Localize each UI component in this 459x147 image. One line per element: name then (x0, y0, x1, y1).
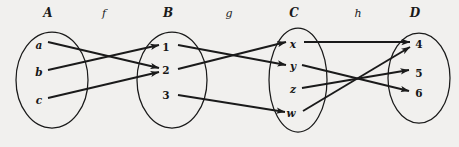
set-label-c: C (289, 6, 299, 20)
element-c-y: y (289, 60, 297, 72)
element-b-2: 2 (162, 64, 169, 76)
map-labels-group: fgh (101, 7, 362, 20)
arrow-h-y-to-6 (302, 65, 409, 91)
set-label-b: B (162, 6, 173, 20)
arrow-f-c-to-2 (48, 72, 159, 98)
map-label-f: f (101, 7, 108, 20)
set-label-d: D (409, 6, 421, 20)
diagram-canvas: ABCD fgh abc123xyzw456 (0, 0, 459, 147)
set-oval-a (16, 32, 88, 128)
arrow-f-b-to-1 (48, 45, 159, 70)
arrows-group (48, 42, 410, 112)
arrow-g-3-to-w (178, 95, 285, 112)
element-c-z: z (289, 83, 297, 95)
set-oval-b (137, 32, 207, 128)
element-d-6: 6 (415, 87, 422, 99)
element-c-x: x (289, 38, 297, 50)
set-label-a: A (42, 6, 52, 20)
element-b-1: 1 (162, 41, 169, 53)
element-a-b: b (35, 66, 42, 78)
set-ovals-group (16, 28, 450, 132)
element-b-3: 3 (162, 89, 169, 101)
element-d-4: 4 (415, 38, 422, 50)
function-composition-diagram: ABCD fgh abc123xyzw456 (0, 0, 459, 147)
arrow-h-w-to-4 (303, 47, 410, 111)
element-a-c: c (36, 94, 43, 106)
element-a-a: a (36, 39, 43, 51)
map-label-g: g (225, 7, 232, 20)
map-label-h: h (354, 7, 361, 20)
element-c-w: w (286, 107, 296, 119)
element-d-5: 5 (415, 67, 422, 79)
